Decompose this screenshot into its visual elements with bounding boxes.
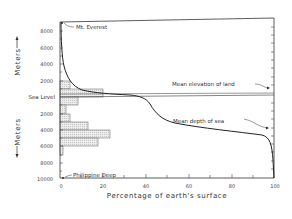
x-tick-0: 0	[59, 183, 62, 189]
y-tick-6000-up: 6000	[40, 45, 53, 51]
y-tick-8000-down: 8000	[40, 160, 53, 166]
y-tick-2000-down: 2000	[40, 111, 53, 117]
x-tick-80: 80	[229, 183, 235, 189]
arrow-down-icon	[16, 154, 19, 158]
svg-text:Mean elevation of land: Mean elevation of land	[172, 81, 235, 87]
y-tick-sea-level: Sea Level	[28, 94, 55, 100]
arrow-up-icon	[16, 36, 19, 40]
x-tick-60: 60	[186, 183, 192, 189]
y-tick-4000-up: 4000	[40, 61, 53, 67]
svg-text:Philippine Deep: Philippine Deep	[73, 172, 117, 179]
plot-frame	[60, 18, 274, 178]
hypsographic-chart: 8000 6000 4000 2000 Sea Level 2000 4000 …	[0, 0, 292, 219]
arrow-right-icon	[266, 127, 269, 130]
y-axis-title-lower: Meters	[14, 118, 22, 158]
x-tick-100: 100	[270, 183, 280, 189]
y-axis-title-upper: Meters	[14, 36, 22, 76]
y-tick-10000-down: 10000	[37, 176, 53, 182]
y-tick-6000-down: 6000	[40, 143, 53, 149]
hypsographic-curve	[61, 22, 274, 178]
x-tick-labels: 0 20 40 60 80 100	[59, 183, 279, 189]
svg-text:Meters: Meters	[14, 118, 22, 146]
annotation-mean-elevation: Mean elevation of land	[172, 81, 270, 90]
y-tick-2000-up: 2000	[40, 78, 53, 84]
annotation-mean-depth: Mean depth of sea	[173, 118, 269, 130]
histogram-bars	[60, 81, 110, 155]
y-tick-labels: 8000 6000 4000 2000 Sea Level 2000 4000 …	[28, 28, 55, 182]
y-tick-8000-up: 8000	[40, 28, 53, 34]
annotation-mt-everest: Mt. Everest	[61, 22, 108, 30]
x-tick-20: 20	[100, 183, 106, 189]
svg-text:Meters: Meters	[14, 48, 22, 76]
x-axis-title: Percentage of earth's surface	[107, 192, 227, 200]
y-tick-4000-down: 4000	[40, 127, 53, 133]
svg-text:Mt. Everest: Mt. Everest	[76, 24, 108, 30]
arrow-right-icon	[267, 87, 270, 90]
svg-text:Mean depth of sea: Mean depth of sea	[173, 118, 224, 125]
x-tick-40: 40	[143, 183, 149, 189]
